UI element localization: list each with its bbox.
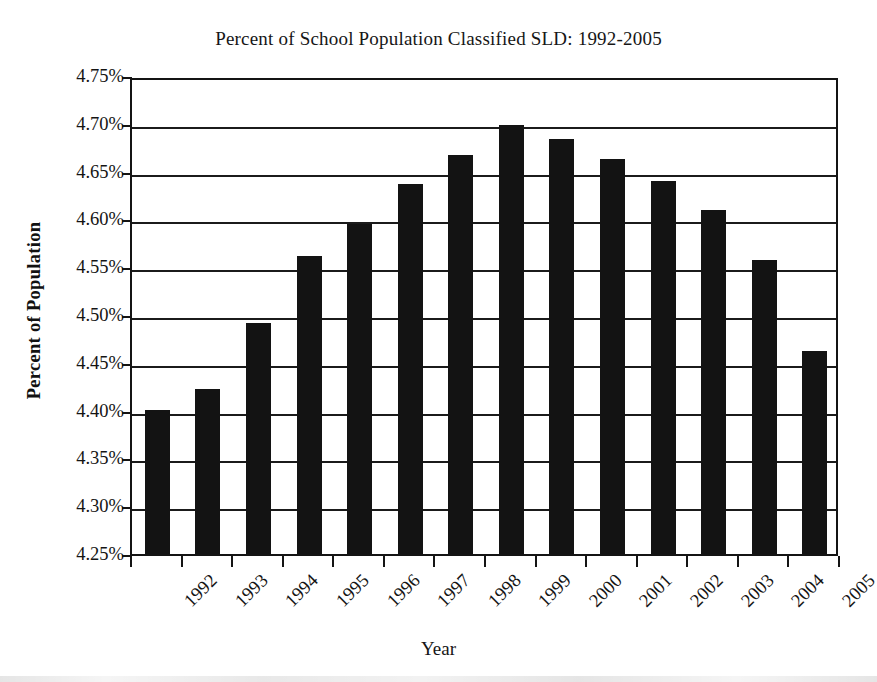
- y-axis-tick-label: 4.75%: [56, 66, 124, 87]
- bar-2004: [752, 260, 777, 554]
- scan-artifact: [0, 676, 877, 682]
- x-axis-tick-label-2004: 2004: [787, 570, 829, 612]
- x-axis-tick-label-1999: 1999: [534, 570, 576, 612]
- bar-1993: [195, 389, 220, 554]
- x-axis-tick-label-1995: 1995: [332, 570, 374, 612]
- gridline: [132, 509, 836, 511]
- gridline: [132, 366, 836, 368]
- y-axis-tick-label: 4.70%: [56, 114, 124, 135]
- x-axis-tick-label-1998: 1998: [484, 570, 526, 612]
- x-axis-tick-label-1994: 1994: [281, 570, 323, 612]
- y-axis-tick-label: 4.60%: [56, 209, 124, 230]
- y-axis-tick-label: 4.40%: [56, 401, 124, 422]
- x-axis-tick-label-1997: 1997: [433, 570, 475, 612]
- x-axis-tick-mark: [383, 556, 385, 567]
- x-axis-title: Year: [0, 638, 877, 660]
- bar-2001: [600, 159, 625, 554]
- y-axis-tick-label: 4.25%: [56, 544, 124, 565]
- bar-2002: [651, 181, 676, 554]
- plot-area: [130, 78, 838, 556]
- gridline: [132, 222, 836, 224]
- x-axis-tick-mark: [231, 556, 233, 567]
- y-axis-tick-label: 4.45%: [56, 353, 124, 374]
- x-axis-tick-label-2003: 2003: [737, 570, 779, 612]
- x-axis-tick-mark: [686, 556, 688, 567]
- x-axis-tick-mark: [636, 556, 638, 567]
- bar-1999: [499, 125, 524, 554]
- x-axis-tick-mark: [484, 556, 486, 567]
- chart-figure: Percent of School Population Classified …: [0, 0, 877, 682]
- x-axis-tick-label-1992: 1992: [180, 570, 222, 612]
- bar-2005: [802, 351, 827, 554]
- bar-1992: [145, 410, 170, 554]
- x-axis-tick-label-1993: 1993: [231, 570, 273, 612]
- y-axis-tick-label: 4.55%: [56, 257, 124, 278]
- y-axis-title: Percent of Population: [24, 191, 45, 431]
- x-axis-tick-mark: [433, 556, 435, 567]
- y-axis-tick-label: 4.30%: [56, 496, 124, 517]
- x-axis-tick-label-2002: 2002: [686, 570, 728, 612]
- x-axis-tick-mark: [585, 556, 587, 567]
- bar-1994: [246, 323, 271, 554]
- x-axis-tick-label-2005: 2005: [838, 570, 877, 612]
- bar-2003: [701, 210, 726, 554]
- x-axis-tick-label-2000: 2000: [585, 570, 627, 612]
- x-axis-tick-mark: [535, 556, 537, 567]
- y-axis-tick-label: 4.35%: [56, 448, 124, 469]
- gridline: [132, 414, 836, 416]
- gridline: [132, 318, 836, 320]
- y-axis-tick-label: 4.50%: [56, 305, 124, 326]
- bar-1997: [398, 184, 423, 554]
- chart-title: Percent of School Population Classified …: [0, 28, 877, 50]
- x-axis-tick-mark: [332, 556, 334, 567]
- x-axis-tick-mark: [737, 556, 739, 567]
- x-axis-tick-mark: [130, 556, 132, 567]
- x-axis-tick-label-2001: 2001: [635, 570, 677, 612]
- gridline: [132, 270, 836, 272]
- x-axis-tick-mark: [181, 556, 183, 567]
- x-axis-tick-label-1996: 1996: [383, 570, 425, 612]
- bar-1998: [448, 155, 473, 554]
- bar-2000: [549, 139, 574, 554]
- gridline: [132, 175, 836, 177]
- x-axis-tick-mark: [282, 556, 284, 567]
- x-axis-tick-mark: [787, 556, 789, 567]
- gridline: [132, 461, 836, 463]
- bar-1995: [297, 256, 322, 554]
- x-axis-tick-mark: [838, 556, 840, 567]
- gridline: [132, 127, 836, 129]
- y-axis-tick-label: 4.65%: [56, 162, 124, 183]
- bar-1996: [347, 224, 372, 554]
